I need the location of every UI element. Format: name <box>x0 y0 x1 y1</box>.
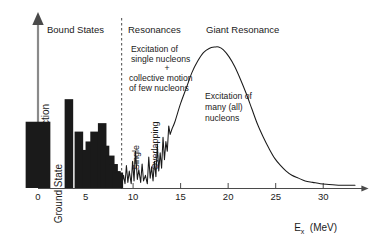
figure-root: Bound States Resonances Giant Resonance … <box>0 0 386 235</box>
x-axis-unit: (MeV) <box>310 222 337 233</box>
section-header-giant-resonance: Giant Resonance <box>206 25 279 36</box>
x-axis-tick-label: 30 <box>309 192 337 203</box>
bound-state-line <box>65 99 74 188</box>
x-axis-tick-label: 0 <box>24 192 52 203</box>
x-axis-tick-label: 25 <box>262 192 290 203</box>
section-header-bound-states: Bound States <box>47 25 104 36</box>
bound-state-line <box>75 132 84 188</box>
ground-state-label: Ground State <box>53 164 64 223</box>
annotation-giant-nucleons: nucleons <box>205 114 239 124</box>
bound-state-line <box>90 132 99 188</box>
y-axis-label: Cross–section <box>40 104 51 167</box>
x-axis-tick-label: 10 <box>119 192 147 203</box>
inline-label-overlapping: Overlapping <box>150 121 160 170</box>
x-axis-tick-label: 15 <box>167 192 195 203</box>
x-axis-tick-label: 5 <box>72 192 100 203</box>
x-axis-tick-label: 20 <box>214 192 242 203</box>
x-axis-symbol: E <box>294 222 301 233</box>
annotation-resonance-of-few-nucleons: of few nucleons <box>129 84 189 94</box>
annotation-giant-many-all: many (all) <box>205 103 243 113</box>
section-header-resonances: Resonances <box>128 25 181 36</box>
x-axis-title: Ex (MeV) <box>283 211 337 235</box>
inline-label-single: Single <box>131 145 141 170</box>
annotation-giant-excitation-of: Excitation of <box>205 92 252 102</box>
